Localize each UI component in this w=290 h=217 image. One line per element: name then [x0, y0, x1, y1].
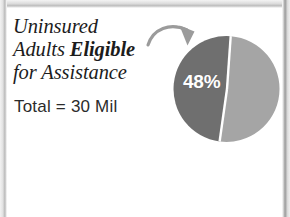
headline-line-3: for Assistance [13, 61, 188, 84]
headline-line-2-plain: Adults [13, 38, 70, 60]
scan-edge-top [0, 0, 290, 8]
total-label: Total = 30 Mil [14, 97, 117, 117]
figure-panel: Uninsured Adults Eligible for Assistance… [0, 0, 290, 217]
headline-emphasis-eligible: Eligible [70, 38, 135, 60]
scan-edge-left [0, 0, 7, 217]
pie-slice-label-eligible: 48% [183, 71, 220, 93]
